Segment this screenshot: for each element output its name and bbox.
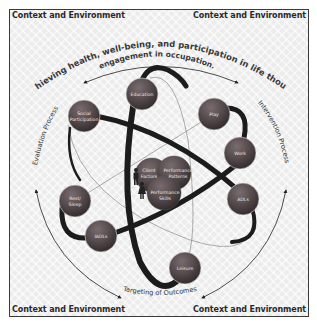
core-label-skills-1: Performance [150,190,179,195]
band-social-tail [69,128,80,180]
node-education: Education [126,78,158,110]
node-leisure: Leisure [169,252,201,284]
node-play: Play [198,98,230,130]
node-rest-sleep: Rest/ Sleep [59,185,91,217]
core-label-client-2: Factors [141,174,158,179]
intervention-process-label: Intervention Process [256,99,291,165]
node-label: Work [234,151,246,156]
node-adls: ADLs [227,183,259,215]
node-work: Work [224,137,256,169]
node-label: Play [209,112,219,117]
occupation-diagram: Achieving health, well-being, and partic… [0,0,317,324]
core-label-patterns-1: Performance [163,168,192,173]
evaluation-process-label: Evaluation Process [31,104,60,166]
core-label-client-1: Client [142,168,155,173]
node-iadls: IADLs [85,220,117,252]
core-label-skills-2: Skills [159,196,171,201]
node-label: Leisure [177,266,194,271]
node-label-line2: Sleep [69,202,82,207]
core-label-patterns-2: Patterns [169,174,189,179]
node-social-participation: Social Participation [68,100,100,132]
node-label: IADLs [95,234,109,239]
node-label-line1: Rest/ [69,196,81,201]
node-label: ADLs [237,197,249,202]
node-label-line2: Participation [70,117,99,122]
node-label-line1: Social [77,111,91,116]
node-label: Education [131,92,154,97]
person-male-icon [134,168,139,185]
